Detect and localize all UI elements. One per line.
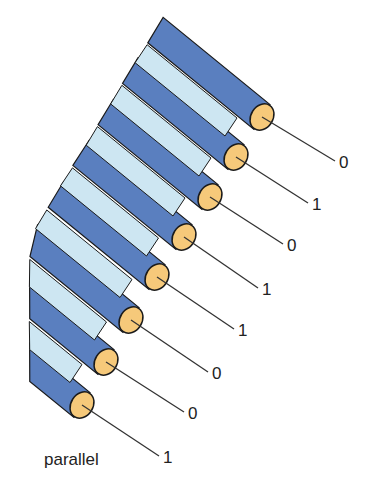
bit-label: 1 [262,280,271,300]
parallel-cable-diagram [0,0,373,490]
bit-label: 0 [188,404,197,424]
bit-label: 1 [163,448,172,468]
bit-label: 0 [287,236,296,256]
bit-label: 0 [212,364,221,384]
caption-parallel: parallel [44,450,99,470]
bit-label: 1 [312,195,321,215]
bit-label: 1 [238,321,247,341]
bit-label: 0 [339,153,348,173]
